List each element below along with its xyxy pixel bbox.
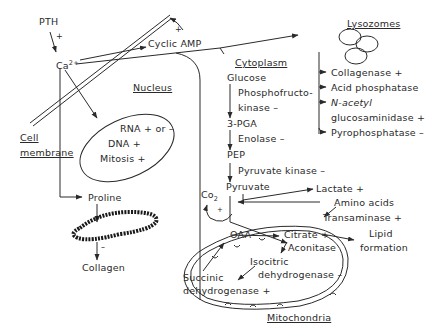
aconitase-label: Aconitase [288, 242, 336, 253]
succinic-label-line2: dehydrogenase + [183, 285, 271, 296]
oaa-label: OAA [230, 229, 251, 240]
proline-label: Proline [88, 192, 122, 203]
cell-membrane-label-line2: membrane [20, 147, 74, 158]
calcium-symbol: Ca [56, 60, 69, 71]
co2-subscript: 2 [214, 195, 218, 203]
isocitric-label-line1: Isocitric [250, 256, 289, 267]
succinic-label-line1: Succinic [183, 272, 224, 283]
cyclic-amp-label: Cyclic AMP [148, 38, 201, 49]
co2-symbol: Co [201, 189, 214, 200]
nucleus-item-dna: DNA + [108, 138, 141, 149]
pyruvate-kinase-label: Pyruvate kinase – [238, 165, 325, 176]
co2-sign: + [217, 205, 223, 216]
cell-membrane-label: Cell membrane [20, 132, 74, 158]
enzyme-n-acetyl-text: N-acetyl [331, 97, 372, 108]
citrate-label: Citrate + [284, 229, 329, 240]
collagen-label: Collagen [82, 262, 125, 273]
lactate-label: Lactate + [316, 183, 364, 194]
enolase-label: Enolase – [238, 133, 285, 144]
pfk-label-line1: Phosphofructo- [238, 87, 313, 98]
enzyme-acid-phosphatase: Acid phosphatase [331, 82, 418, 93]
cyclic-amp-sign: + [175, 24, 182, 35]
lipid-label-line1: Lipid [369, 228, 393, 239]
pga-label: 3-PGA [227, 118, 257, 129]
enzyme-n-acetyl: N-acetyl [331, 97, 372, 108]
nucleus-item-mitosis: Mitosis + [100, 153, 146, 164]
calcium-label: Ca2+ [56, 58, 79, 71]
co2-label: Co2 [201, 189, 218, 205]
enzyme-pyrophosphatase: Pyrophosphatase – [331, 127, 424, 138]
pfk-label-line2: kinase – [238, 102, 278, 113]
cytoplasm-label: Cytoplasm [235, 57, 287, 68]
lysozomes-label: Lysozomes [347, 18, 400, 29]
nucleus-label: Nucleus [133, 82, 172, 93]
collagen-sign: – [101, 242, 105, 253]
enzyme-glucosaminidase: glucosaminidase + [331, 112, 425, 123]
pyruvate-label: Pyruvate [226, 181, 270, 192]
enzyme-collagenase: Collagenase + [331, 67, 403, 78]
isocitric-label-line2: dehydrogenase – [258, 269, 342, 280]
amino-acids-label: Amino acids [334, 197, 394, 208]
glucose-label: Glucose [227, 72, 266, 83]
pep-label: PEP [227, 149, 245, 160]
calcium-charge: 2+ [69, 59, 79, 67]
mitochondria-label: Mitochondria [267, 312, 331, 323]
cell-membrane-label-line1: Cell [20, 132, 74, 143]
transaminase-label: Transaminase + [323, 212, 402, 223]
pth-sign: + [56, 31, 63, 42]
cell-membrane-line [30, 15, 172, 126]
nucleus-item-rna: RNA + or – [120, 123, 174, 134]
pth-label: PTH [39, 16, 58, 27]
lipid-label-line2: formation [360, 242, 408, 253]
